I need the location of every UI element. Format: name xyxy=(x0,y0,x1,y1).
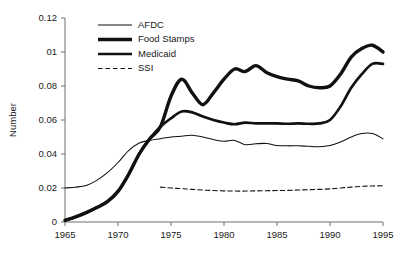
legend-label-ssi: SSI xyxy=(138,62,153,73)
legend-label-food-stamps: Food Stamps xyxy=(138,33,195,44)
x-tick-label: 1985 xyxy=(266,229,287,240)
series-line-food-stamps xyxy=(65,45,383,220)
x-tick-label: 1975 xyxy=(160,229,181,240)
data-series-group xyxy=(65,45,383,220)
y-tick-label: 01 xyxy=(46,46,57,57)
x-tick-label: 1970 xyxy=(107,229,128,240)
legend-label-afdc: AFDC xyxy=(138,19,164,30)
chart-figure: 00.020.040.060.08010.12 1965197019751980… xyxy=(0,0,396,254)
x-tick-label: 1995 xyxy=(372,229,393,240)
x-tick-label: 1965 xyxy=(54,229,75,240)
y-tick-label: 0.12 xyxy=(39,12,58,23)
series-line-afdc xyxy=(65,133,383,188)
y-tick-label: 0.02 xyxy=(39,182,58,193)
y-tick-label: 0 xyxy=(52,216,57,227)
y-axis-title: Number xyxy=(7,103,18,137)
x-tick-label: 1980 xyxy=(213,229,234,240)
chart-legend: AFDCFood StampsMedicaidSSI xyxy=(98,19,195,74)
y-tick-label: 0.08 xyxy=(39,80,58,91)
x-axis-ticks: 1965197019751980198519901995 xyxy=(54,222,393,240)
y-tick-label: 0.06 xyxy=(39,114,58,125)
x-tick-label: 1990 xyxy=(319,229,340,240)
line-chart: 00.020.040.060.08010.12 1965197019751980… xyxy=(0,0,396,254)
series-line-ssi xyxy=(160,186,383,191)
legend-label-medicaid: Medicaid xyxy=(138,48,176,59)
y-axis-ticks: 00.020.040.060.08010.12 xyxy=(39,12,66,227)
y-tick-label: 0.04 xyxy=(39,148,58,159)
